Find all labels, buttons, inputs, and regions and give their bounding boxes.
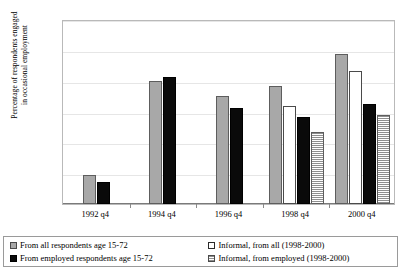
legend-item[interactable]: Informal, from all (1998-2000) [208,241,397,250]
bar [216,96,229,204]
x-tick-mark [263,204,264,208]
x-tick-mark [329,204,330,208]
legend-swatch-icon [208,255,215,262]
plot-inner: 0%2%4%6%8%10%12% [63,21,394,204]
legend-row: From employed respondents age 15-72Infor… [4,252,397,265]
legend-swatch-icon [10,255,17,262]
chart-legend: From all respondents age 15-72Informal, … [3,236,398,267]
bar [311,132,324,204]
x-axis-tick-label: 1996 q4 [194,209,264,219]
bar [149,81,162,204]
legend-row: From all respondents age 15-72Informal, … [4,239,397,252]
bar [283,106,296,204]
legend-label: From employed respondents age 15-72 [20,254,153,263]
legend-item[interactable]: From employed respondents age 15-72 [4,254,208,263]
plot-area: 0%2%4%6%8%10%12% [62,20,395,205]
legend-swatch-icon [10,242,17,249]
chart-figure: Percentage of respondents engaged in occ… [0,0,401,270]
bar-group [329,21,396,204]
bar [349,71,362,204]
legend-item[interactable]: From all respondents age 15-72 [4,241,208,250]
legend-label: Informal, from employed (1998-2000) [218,254,349,263]
legend-label: From all respondents age 15-72 [20,241,128,250]
bar [163,77,176,204]
bar [97,182,110,204]
x-axis-tick-label: 2000 q4 [327,209,397,219]
bar-group [196,21,263,204]
legend-item[interactable]: Informal, from employed (1998-2000) [208,254,397,263]
bar [377,115,390,204]
bar [297,117,310,204]
y-axis-title-line-1: Percentage of respondents engaged [10,0,20,155]
x-tick-mark [130,204,131,208]
x-axis-tick-label: 1992 q4 [60,209,130,219]
x-axis-tick-label: 1998 q4 [260,209,330,219]
bar [363,104,376,204]
bar [83,175,96,204]
bar-group [63,21,130,204]
legend-label: Informal, from all (1998-2000) [218,241,324,250]
x-axis-tick-label: 1994 q4 [127,209,197,219]
bar [269,86,282,204]
bar [335,54,348,204]
bar-group [263,21,330,204]
legend-swatch-icon [208,242,215,249]
bar [230,108,243,204]
x-tick-mark [196,204,197,208]
y-axis-title-line-2: in occasional employment [20,0,30,155]
bar-group [130,21,197,204]
y-axis-title: Percentage of respondents engaged in occ… [10,0,30,155]
